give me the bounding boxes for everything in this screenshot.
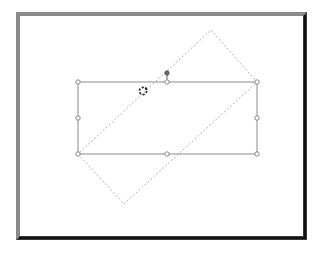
- resize-handle-bottom-left[interactable]: [76, 152, 80, 156]
- resize-handle-middle-left[interactable]: [76, 116, 80, 120]
- resize-handle-bottom-middle[interactable]: [165, 152, 169, 156]
- shape-layer: [0, 0, 324, 254]
- selected-rectangle-shape[interactable]: [78, 82, 257, 154]
- slide-canvas: [0, 0, 324, 254]
- resize-handles[interactable]: [76, 80, 259, 156]
- resize-handle-middle-right[interactable]: [255, 116, 259, 120]
- rotation-handle[interactable]: [165, 71, 169, 75]
- resize-handle-bottom-right[interactable]: [255, 152, 259, 156]
- rotate-cursor-icon: [139, 87, 147, 95]
- resize-handle-top-right[interactable]: [255, 80, 259, 84]
- rotation-preview-outline: [78, 30, 257, 204]
- resize-handle-top-left[interactable]: [76, 80, 80, 84]
- resize-handle-top-middle[interactable]: [165, 80, 169, 84]
